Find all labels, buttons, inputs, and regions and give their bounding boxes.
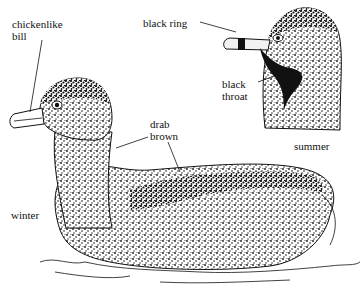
label-black-throat: black throat bbox=[222, 78, 248, 102]
label-line: chickenlike bbox=[12, 18, 63, 30]
black-ring-marking bbox=[238, 38, 245, 50]
label-line: black bbox=[222, 78, 248, 90]
label-chickenlike-bill: chickenlike bill bbox=[12, 18, 63, 42]
label-black-ring: black ring bbox=[143, 17, 187, 29]
label-summer: summer bbox=[294, 140, 329, 152]
label-line: brown bbox=[150, 130, 178, 142]
leader-line-brown-back bbox=[168, 142, 180, 172]
leader-line-brown-neck bbox=[116, 137, 148, 148]
label-line: throat bbox=[222, 90, 248, 102]
label-winter: winter bbox=[11, 209, 39, 221]
label-drab-brown: drab brown bbox=[150, 118, 178, 142]
leader-line-ring bbox=[200, 22, 236, 32]
leader-line-bill bbox=[30, 40, 42, 112]
summer-head bbox=[224, 8, 342, 130]
label-line: bill bbox=[12, 30, 63, 42]
label-line: drab bbox=[150, 118, 178, 130]
